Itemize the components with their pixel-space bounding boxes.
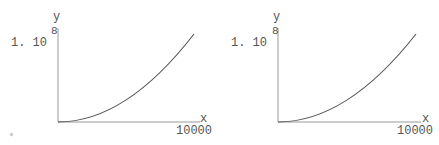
curve: [58, 34, 194, 122]
curve: [278, 34, 416, 122]
x-tick-label: 10000: [397, 125, 433, 137]
y-tick-exponent: 8: [51, 26, 58, 37]
y-axis-label: y: [273, 11, 280, 23]
plot-left: y 1. 10 8 x 10000: [0, 0, 220, 145]
y-tick-mantissa: 1. 10: [231, 37, 267, 49]
x-tick-label: 10000: [176, 125, 212, 137]
y-axis-label: y: [53, 11, 60, 23]
plot-right: y 1. 10 8 x 10000: [219, 0, 439, 145]
y-tick-exponent: 8: [272, 26, 279, 37]
y-tick-mantissa: 1. 10: [11, 37, 47, 49]
